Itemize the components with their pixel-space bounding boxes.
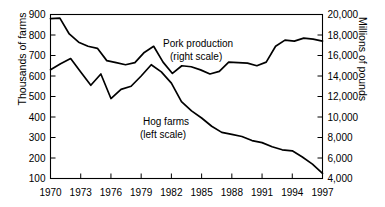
annotation-pork-production: Pork production [163,38,233,49]
left-tick-label: 700 [29,50,46,61]
x-tick-label: 1997 [311,187,334,198]
left-tick-label: 500 [29,91,46,102]
left-axis-tick-labels: 100200300400500600700800900 [29,9,46,184]
right-tick-label: 14,000 [328,71,359,82]
x-axis-tick-labels: 1970197319761979198219851988199119941997 [39,187,334,198]
right-tick-label: 16,000 [328,50,359,61]
chart-figure: Thousands of farms Millions of pounds 10… [0,0,385,207]
x-tick-label: 1970 [39,187,62,198]
right-tick-label: 6,000 [328,153,353,164]
x-tick-label: 1991 [251,187,274,198]
right-tick-label: 20,000 [328,9,359,20]
left-tick-label: 900 [29,9,46,20]
left-tick-label: 100 [29,173,46,184]
left-tick-label: 800 [29,30,46,41]
right-axis-tick-labels: 4,0006,0008,00010,00012,00014,00016,0001… [328,9,359,184]
x-tick-label: 1979 [130,187,153,198]
left-tick-label: 300 [29,132,46,143]
x-tick-label: 1985 [190,187,213,198]
annotation-hog-farms: Hog farms [143,116,189,127]
x-tick-label: 1988 [221,187,244,198]
x-tick-label: 1982 [160,187,183,198]
annotation-hog-farms-scale: (left scale) [140,129,186,140]
right-tick-label: 18,000 [328,30,359,41]
right-tick-label: 8,000 [328,132,353,143]
left-tick-label: 200 [29,153,46,164]
line-chart-plot: 100200300400500600700800900 4,0006,0008,… [0,0,385,207]
annotation-pork-production-scale: (right scale) [170,51,222,62]
x-tick-label: 1976 [100,187,123,198]
right-tick-label: 12,000 [328,91,359,102]
right-tick-label: 4,000 [328,173,353,184]
right-tick-label: 10,000 [328,112,359,123]
x-tick-label: 1994 [281,187,304,198]
left-tick-label: 600 [29,71,46,82]
left-tick-label: 400 [29,112,46,123]
x-tick-label: 1973 [70,187,93,198]
